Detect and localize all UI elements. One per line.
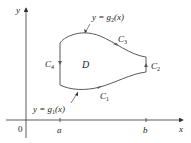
x-axis-label: x: [178, 124, 183, 134]
y-axis-label: y: [15, 5, 20, 15]
c3-label: C3: [118, 34, 127, 45]
region-label: D: [81, 59, 90, 70]
upper-curve-label: y = g2(x): [91, 12, 124, 23]
c4-label: C4: [45, 59, 54, 70]
c2-arrow-icon: [144, 63, 148, 67]
c1-arrow-icon: [97, 86, 102, 89]
c1-label: C1: [100, 91, 109, 102]
c2-label: C2: [151, 61, 160, 72]
diagram-canvas: y x 0 a b D C1 C2 C3 C4 y = g2(x) y = g1…: [0, 0, 191, 143]
g1-leader-arrow-icon: [75, 92, 78, 96]
tick-b-label: b: [143, 125, 148, 135]
c4-arrow-icon: [58, 61, 62, 65]
tick-a-label: a: [57, 125, 62, 135]
origin-label: 0: [18, 124, 23, 134]
region-boundary: [60, 33, 146, 90]
lower-curve-label: y = g1(x): [32, 104, 65, 115]
